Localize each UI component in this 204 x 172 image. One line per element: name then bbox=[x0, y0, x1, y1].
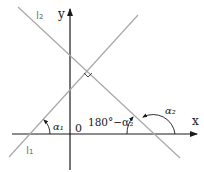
line-l1 bbox=[9, 15, 138, 157]
line-l1-label: l₁ bbox=[26, 144, 33, 157]
alpha1-label: α₁ bbox=[53, 121, 64, 132]
supplement-angle-label: 180°−α₂ bbox=[88, 116, 133, 128]
alpha1-arc bbox=[44, 120, 50, 134]
alpha2-arc bbox=[143, 115, 175, 134]
line-l2-label: l₂ bbox=[36, 9, 43, 22]
origin-label: 0 bbox=[75, 122, 82, 135]
line-l2 bbox=[18, 7, 180, 158]
x-axis-label: x bbox=[192, 114, 199, 128]
alpha2-label: α₂ bbox=[165, 105, 176, 116]
y-axis-label: y bbox=[57, 7, 65, 21]
diagram-canvas: y x 0 l₂ l₁ α₁ 180°−α₂ α₂ bbox=[0, 0, 204, 172]
